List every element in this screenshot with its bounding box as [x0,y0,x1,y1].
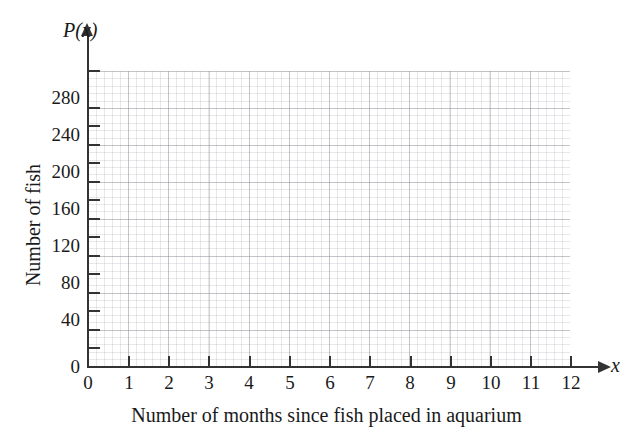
x-tick-label-12: 12 [556,373,586,393]
y-tick-20 [88,347,100,349]
y-tick-140 [88,236,100,238]
x-tick-5 [289,356,291,367]
y-tick-80 [88,292,100,294]
y-axis-title: Number of fish [23,130,43,320]
x-tick-1 [128,356,130,367]
x-tick-label-5: 5 [275,373,305,393]
y-tick-300 [88,70,100,72]
plot-grid-area [88,71,570,367]
x-tick-label-8: 8 [395,373,425,393]
y-tick-40 [88,329,100,331]
y-tick-280 [88,107,100,109]
x-axis-name: x [611,355,620,375]
x-tick-8 [410,356,412,367]
x-tick-label-6: 6 [315,373,345,393]
x-tick-label-10: 10 [476,373,506,393]
x-axis-arrow-icon [598,361,611,373]
x-tick-label-9: 9 [436,373,466,393]
x-tick-3 [208,356,210,367]
y-axis-name: P(x) [63,20,97,40]
y-tick-160 [88,218,100,220]
y-tick-60 [88,310,100,312]
graph-figure: P(x) x 280 240 200 160 120 80 40 0 0 1 2… [0,0,633,436]
x-axis-title: Number of months since fish placed in aq… [0,404,633,426]
x-tick-7 [369,356,371,367]
x-tick-9 [450,356,452,367]
x-tick-label-2: 2 [154,373,184,393]
grid-dot-texture [88,71,570,367]
x-tick-label-1: 1 [114,373,144,393]
x-tick-label-11: 11 [516,373,546,393]
x-tick-label-3: 3 [194,373,224,393]
y-tick-260 [88,125,100,127]
x-tick-10 [490,356,492,367]
y-tick-180 [88,199,100,201]
y-tick-240 [88,144,100,146]
x-tick-label-7: 7 [355,373,385,393]
x-tick-2 [168,356,170,367]
x-tick-4 [249,356,251,367]
y-tick-label-280: 280 [32,88,80,107]
x-tick-label-0: 0 [73,373,103,393]
y-tick-100 [88,273,100,275]
x-tick-12 [570,356,572,367]
y-tick-200 [88,181,100,183]
y-tick-220 [88,162,100,164]
x-tick-11 [530,356,532,367]
x-tick-label-4: 4 [234,373,264,393]
x-axis-line [87,366,601,368]
x-tick-6 [329,356,331,367]
y-tick-120 [88,255,100,257]
